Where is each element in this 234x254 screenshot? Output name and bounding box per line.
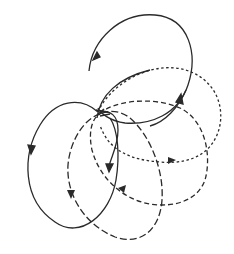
arrow-icon [106, 164, 113, 172]
diagram-canvas [0, 0, 234, 254]
solid-inner-loop [100, 112, 118, 166]
arrow-icon [176, 94, 183, 104]
loop-diagram [0, 0, 234, 254]
dotted-right-ellipse [98, 68, 221, 163]
arrow-icon [118, 185, 126, 193]
solid-left-ellipse [28, 102, 118, 228]
dashed-middle-ellipse [90, 101, 207, 205]
